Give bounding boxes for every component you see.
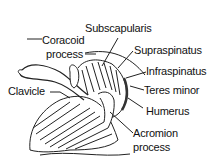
label-acromion-line1: Acromion — [133, 128, 178, 139]
shoulder-diagram: Subscapularis Coracoid process Supraspin… — [0, 0, 215, 166]
label-coracoid-line1: Coracoid — [42, 35, 84, 46]
label-supraspinatus: Supraspinatus — [134, 45, 202, 56]
label-humerus: Humerus — [146, 106, 189, 117]
label-coracoid-line2: process — [46, 49, 83, 60]
label-subscapularis: Subscapularis — [85, 23, 152, 34]
label-acromion-line2: process — [133, 142, 170, 153]
label-teres-minor: Teres minor — [144, 85, 199, 96]
label-infraspinatus: Infraspinatus — [146, 66, 206, 77]
label-clavicle: Clavicle — [8, 86, 45, 97]
